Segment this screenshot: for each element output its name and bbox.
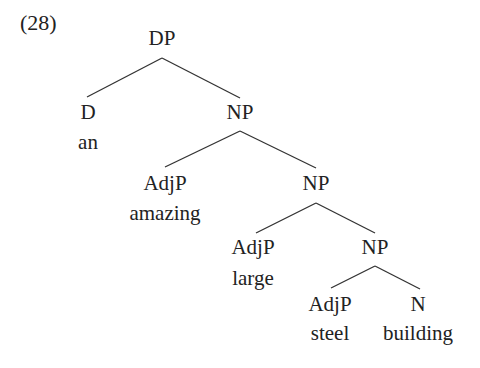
tree-edge (375, 266, 420, 289)
word-amazing: amazing (129, 203, 200, 224)
tree-edge (87, 58, 162, 97)
node-np-2: NP (303, 173, 330, 194)
node-adjp-1: AdjP (143, 173, 186, 194)
tree-edge (165, 131, 240, 167)
word-building: building (383, 323, 453, 344)
tree-edge (240, 131, 316, 168)
word-steel: steel (311, 323, 349, 344)
node-dp-root: DP (149, 28, 176, 49)
tree-edge (331, 266, 375, 288)
node-n: N (410, 294, 425, 315)
node-np-3: NP (362, 237, 389, 258)
node-np-1: NP (227, 102, 254, 123)
node-adjp-3: AdjP (308, 294, 351, 315)
tree-edge (256, 203, 316, 233)
tree-edge (316, 203, 375, 233)
tree-edges (0, 0, 480, 368)
node-adjp-2: AdjP (231, 237, 274, 258)
word-an: an (78, 132, 98, 153)
word-large: large (232, 268, 274, 289)
node-d: D (80, 102, 95, 123)
tree-edge (162, 58, 240, 98)
